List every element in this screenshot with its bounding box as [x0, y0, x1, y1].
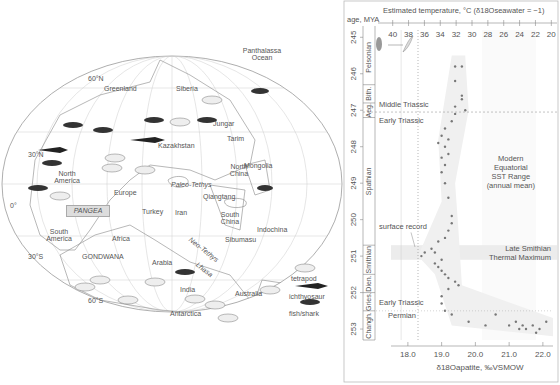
svg-text:248: 248: [349, 139, 358, 153]
svg-text:Spathian: Spathian: [366, 167, 374, 195]
turkey-label: Turkey: [142, 208, 163, 215]
svg-text:247: 247: [349, 103, 358, 117]
svg-text:21.0: 21.0: [501, 350, 517, 359]
lat-0: 0°: [10, 202, 17, 209]
svg-text:Aeg.: Aeg.: [366, 103, 374, 117]
arabia-label: Arabia: [152, 259, 172, 266]
svg-text:20: 20: [547, 30, 556, 39]
legend-fish-shark: fish/shark: [289, 310, 319, 317]
siberia-label: Siberia: [176, 85, 198, 92]
svg-text:Middle Triassic: Middle Triassic: [379, 100, 429, 109]
south-china-label: South China: [219, 211, 241, 225]
svg-text:22.0: 22.0: [535, 350, 551, 359]
svg-text:Estimated temperature, °C (δ18: Estimated temperature, °C (δ18Oseawater …: [383, 6, 545, 15]
svg-text:32: 32: [452, 30, 461, 39]
antarctica-label: Antarctica: [170, 310, 201, 317]
svg-text:20.0: 20.0: [468, 350, 484, 359]
gondwana-label: GONDWANA: [82, 253, 124, 260]
svg-text:(annual mean): (annual mean): [487, 181, 536, 190]
europe-label: Europe: [114, 189, 137, 196]
paleo-tethys-label: Paleo-Tethys: [171, 181, 212, 188]
svg-text:22: 22: [531, 30, 540, 39]
svg-text:34: 34: [436, 30, 445, 39]
svg-text:36: 36: [420, 30, 429, 39]
australia-label: Australia: [235, 290, 262, 297]
svg-text:26: 26: [499, 30, 508, 39]
pangea-label: PANGEA: [66, 205, 110, 217]
india-label: India: [180, 286, 195, 293]
svg-text:Gries.: Gries.: [366, 292, 373, 311]
svg-text:Late Smithian: Late Smithian: [505, 244, 551, 253]
svg-text:SST Range: SST Range: [491, 172, 530, 181]
indochina-label: Indochina: [257, 226, 287, 233]
svg-text:246: 246: [349, 67, 358, 81]
panthalassa-label: Panthalassa Ocean: [240, 47, 284, 61]
lat-30s: 30°S: [28, 253, 43, 260]
svg-text:age, MYA: age, MYA: [347, 15, 379, 24]
svg-text:Equatorial: Equatorial: [494, 163, 528, 172]
svg-text:Modern: Modern: [498, 154, 523, 163]
svg-text:249: 249: [349, 176, 358, 190]
sibumasu-label: Sibumasu: [225, 236, 256, 243]
svg-text:Bith.: Bith.: [366, 87, 373, 101]
svg-text:18.0: 18.0: [400, 350, 416, 359]
svg-text:28: 28: [483, 30, 492, 39]
svg-text:Permian: Permian: [388, 311, 416, 320]
svg-text:30: 30: [468, 30, 477, 39]
tarim-label: Tarim: [227, 135, 244, 142]
svg-text:24: 24: [515, 30, 524, 39]
chart-canvas: PelsonianBith.Aeg.SpathianSmithianDien.G…: [343, 0, 560, 385]
svg-text:245: 245: [349, 30, 358, 44]
lat-60s: 60°S: [88, 297, 103, 304]
svg-text:40: 40: [388, 30, 397, 39]
qiangtang-label: Qiangtang: [203, 193, 235, 200]
svg-text:253: 253: [349, 322, 358, 336]
svg-text:251: 251: [349, 249, 358, 263]
svg-text:Early Triassic: Early Triassic: [379, 298, 424, 307]
lat-30n: 30°N: [28, 151, 44, 158]
greenland-label: Greenland: [104, 85, 137, 92]
legend-tetrapod: tetrapod: [291, 275, 317, 282]
svg-text:Early Triassic: Early Triassic: [379, 116, 424, 125]
paleogeographic-map: 60°N 30°N 0° 30°S 60°S PANGEA GONDWANA G…: [0, 0, 345, 385]
svg-text:δ18Oapatite, ‰VSMOW: δ18Oapatite, ‰VSMOW: [436, 363, 524, 372]
svg-text:Dien.: Dien.: [366, 275, 373, 291]
svg-text:surface record: surface record: [379, 222, 427, 231]
iran-label: Iran: [175, 209, 187, 216]
svg-text:19.0: 19.0: [434, 350, 450, 359]
jungar-label: Jungar: [213, 120, 234, 127]
kazakhstan-label: Kazakhstan: [158, 142, 195, 149]
africa-label: Africa: [112, 235, 130, 242]
map-graticule: [0, 0, 345, 385]
svg-text:Thermal Maximum: Thermal Maximum: [489, 253, 551, 262]
svg-text:Pelsonian: Pelsonian: [366, 42, 373, 73]
svg-text:252: 252: [349, 285, 358, 299]
north-china-label: North China: [227, 163, 251, 177]
south-america-label: South America: [42, 228, 76, 242]
svg-text:250: 250: [349, 212, 358, 226]
north-america-label: North America: [50, 170, 84, 184]
svg-text:Smithian: Smithian: [366, 246, 373, 273]
svg-text:Changh.: Changh.: [366, 312, 374, 339]
legend-ichthyosaur: ichthyosaur: [289, 293, 325, 300]
lat-60n: 60°N: [88, 75, 104, 82]
isotope-temperature-chart: PelsonianBith.Aeg.SpathianSmithianDien.G…: [343, 0, 560, 385]
